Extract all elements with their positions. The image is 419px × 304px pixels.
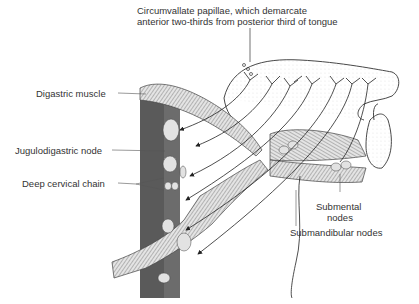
label-submental-line2: nodes [327, 212, 353, 223]
label-jugulodigastric-node: Jugulodigastric node [15, 145, 102, 156]
label-submental-line1: Submental [316, 201, 361, 212]
label-submandibular-nodes: Submandibular nodes [290, 227, 382, 238]
label-digastric-muscle: Digastric muscle [36, 88, 106, 99]
hyoid-structure [366, 114, 391, 168]
tongue-outline [224, 60, 399, 120]
omohyoid-muscle [112, 160, 268, 278]
label-circumvallate-line1: Circumvallate papillae, which demarcate [137, 5, 307, 16]
label-circumvallate-line2: anterior two-thirds from posterior third… [137, 16, 338, 27]
label-deep-cervical-chain: Deep cervical chain [22, 178, 105, 189]
